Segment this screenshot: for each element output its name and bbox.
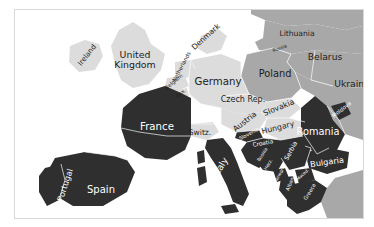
map-geometry (15, 10, 363, 218)
map-canvas (15, 10, 363, 218)
map-frame: IrelandUnitedKingdomDenmarkNetherlandsBe… (14, 9, 364, 219)
country-italy-corsica (197, 150, 205, 164)
europe-map-figure: IrelandUnitedKingdomDenmarkNetherlandsBe… (0, 0, 374, 227)
